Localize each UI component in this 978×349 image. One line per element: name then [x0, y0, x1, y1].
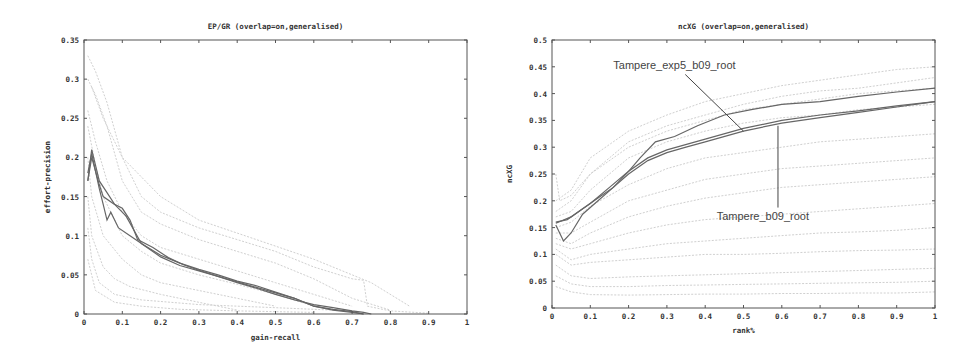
y-tick-label: 0.45: [529, 63, 547, 72]
y-tick-label: 0: [542, 304, 547, 313]
y-tick-label: 0.05: [529, 277, 547, 286]
x-tick-label: 0.2: [154, 318, 168, 327]
series-line-highlight-2: [88, 154, 364, 315]
x-axis-label: rank%: [732, 326, 755, 335]
series-line-highlight-3: [556, 102, 935, 224]
y-tick-label: 0.15: [529, 224, 547, 233]
background-series-line: [556, 158, 935, 233]
background-series-line: [556, 287, 935, 296]
ep-gr-chart: EP/GR (overlap=on,generalised) 00.10.20.…: [43, 22, 470, 342]
x-tick-label: 0: [82, 318, 87, 327]
y-tick-label: 0.25: [61, 114, 79, 123]
background-series-line: [556, 78, 935, 212]
x-tick-label: 0.7: [813, 312, 827, 321]
background-series-line: [556, 265, 935, 278]
background-series-line: [88, 56, 429, 314]
y-tick-label: 0.25: [529, 170, 547, 179]
x-tick-label: 0: [550, 312, 555, 321]
y-tick-label: 0.35: [529, 116, 547, 125]
series-line-tampere-b09-root: [556, 102, 935, 223]
y-tick-label: 0.2: [533, 197, 547, 206]
y-axis-label: effort-precision: [43, 141, 52, 213]
background-series-line: [88, 126, 314, 306]
y-tick-label: 0.3: [533, 143, 547, 152]
ncxg-chart: ncXG (overlap=on,generalised) 00.10.20.3…: [505, 22, 938, 335]
y-tick-label: 0.5: [533, 36, 547, 45]
y-tick-label: 0.1: [65, 232, 79, 241]
x-tick-label: 0.6: [307, 318, 321, 327]
y-tick-label: 0.15: [61, 193, 79, 202]
background-series-line: [556, 228, 935, 260]
x-tick-label: 0.5: [737, 312, 751, 321]
x-tick-label: 1: [465, 318, 470, 327]
x-tick-label: 0.4: [230, 318, 244, 327]
background-series-line: [556, 88, 935, 201]
y-tick-label: 0.4: [533, 90, 547, 99]
ticks-group: 00.10.20.30.40.50.60.70.80.9100.050.10.1…: [61, 36, 470, 327]
background-series-group: [556, 67, 935, 295]
x-tick-label: 0.9: [890, 312, 904, 321]
x-tick-label: 0.4: [698, 312, 712, 321]
x-tick-label: 0.3: [192, 318, 206, 327]
ticks-group: 00.10.20.30.40.50.60.70.80.9100.050.10.1…: [529, 36, 938, 321]
annotation-label: Tampere_exp5_b09_root: [613, 59, 735, 71]
x-axis-label: gain-recall: [251, 333, 301, 342]
background-series-line: [556, 104, 935, 217]
y-tick-label: 0.1: [533, 250, 547, 259]
y-tick-label: 0: [74, 310, 79, 319]
annotation-label: Tampere_b09_root: [717, 210, 809, 222]
background-series-line: [88, 79, 391, 310]
plot-frame: [552, 40, 935, 308]
annotation-pointer: [685, 74, 743, 131]
x-tick-label: 0.1: [584, 312, 598, 321]
x-tick-label: 0.3: [660, 312, 674, 321]
y-axis-label: ncXG: [505, 164, 514, 183]
y-tick-label: 0.2: [65, 153, 79, 162]
x-tick-label: 1: [933, 312, 938, 321]
x-tick-label: 0.6: [775, 312, 789, 321]
x-tick-label: 0.2: [622, 312, 636, 321]
x-tick-label: 0.9: [422, 318, 436, 327]
background-series-group: [88, 56, 429, 314]
y-tick-label: 0.05: [61, 271, 79, 280]
x-tick-label: 0.8: [384, 318, 398, 327]
y-tick-label: 0.35: [61, 36, 79, 45]
x-tick-label: 0.8: [852, 312, 866, 321]
charts-canvas: EP/GR (overlap=on,generalised) 00.10.20.…: [0, 0, 978, 349]
x-tick-label: 0.7: [345, 318, 359, 327]
background-series-line: [92, 87, 410, 306]
x-tick-label: 0.5: [269, 318, 283, 327]
chart-title: EP/GR (overlap=on,generalised): [208, 22, 343, 31]
y-tick-label: 0.3: [65, 75, 79, 84]
x-tick-label: 0.1: [116, 318, 130, 327]
plot-frame: [84, 40, 467, 314]
chart-title: ncXG (overlap=on,generalised): [678, 22, 809, 31]
